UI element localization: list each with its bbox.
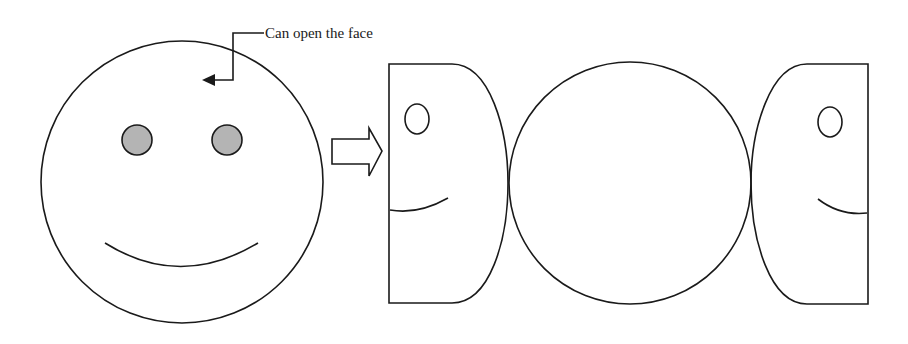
left-eye (122, 125, 152, 155)
right-half-eye (818, 107, 842, 137)
right-eye (212, 125, 242, 155)
callout-leader-line (213, 33, 264, 80)
callout-arrowhead-icon (202, 74, 215, 86)
left-half (389, 64, 508, 303)
face-opening-diagram: Can open the face (0, 0, 908, 344)
smile (105, 243, 258, 267)
transition-arrow-icon (332, 128, 382, 176)
face-outline (41, 41, 323, 323)
right-half-smile (818, 199, 867, 213)
center-circle (509, 62, 751, 304)
callout-label: Can open the face (265, 25, 373, 41)
right-half-outline (751, 64, 868, 304)
left-half-outline (389, 64, 508, 303)
callout: Can open the face (202, 25, 373, 86)
right-half (751, 64, 868, 304)
whole-face (41, 41, 323, 323)
left-half-smile (390, 198, 448, 211)
left-half-eye (405, 104, 429, 134)
